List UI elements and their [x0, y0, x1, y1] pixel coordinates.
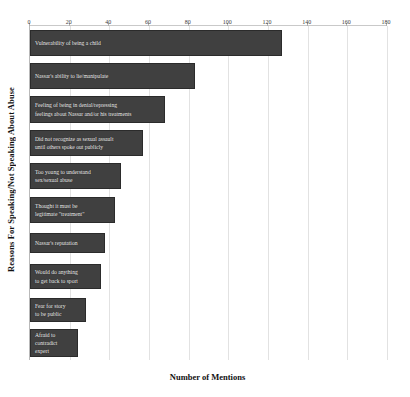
bar-row[interactable]: Too young to understand sex/sexual abuse — [30, 163, 387, 189]
bar[interactable] — [30, 329, 78, 357]
bar[interactable] — [30, 130, 143, 156]
x-tick-label: 20 — [66, 19, 72, 25]
x-tick-label: 80 — [185, 19, 191, 25]
bar[interactable] — [30, 197, 115, 223]
bar-row[interactable]: Nassar's ability to lie/manipulate — [30, 63, 387, 89]
bar-row[interactable]: Did not recognize as sexual assault unti… — [30, 130, 387, 156]
bar-row[interactable]: Thought it must be legitimate "treatment… — [30, 197, 387, 223]
bar-row[interactable]: Fear for story to be public — [30, 298, 387, 322]
bar[interactable] — [30, 63, 195, 89]
gridline — [387, 26, 388, 360]
x-tick-label: 60 — [145, 19, 151, 25]
x-tick-label: 180 — [382, 19, 391, 25]
x-axis-title: Number of Mentions — [29, 372, 386, 382]
bar[interactable] — [30, 96, 165, 123]
bar[interactable] — [30, 264, 101, 289]
bar[interactable] — [30, 163, 121, 189]
bar[interactable] — [30, 298, 86, 322]
x-tick-label: 160 — [342, 19, 351, 25]
bar-row[interactable]: Feeling of being in denial/repressing fe… — [30, 96, 387, 123]
x-tick-label: 0 — [28, 19, 31, 25]
bar-row[interactable]: Nassar's reputation — [30, 233, 387, 253]
x-axis-top: 020406080100120140160180 — [29, 14, 386, 26]
bar[interactable] — [30, 233, 105, 253]
x-tick-label: 140 — [302, 19, 311, 25]
y-axis-title-text: Reasons For Speaking/Not Speaking About … — [6, 87, 16, 272]
x-tick-label: 40 — [105, 19, 111, 25]
bar-row[interactable]: Would do anything to get back to sport — [30, 264, 387, 289]
x-tick-label: 100 — [223, 19, 232, 25]
y-axis-title: Reasons For Speaking/Not Speaking About … — [0, 0, 22, 360]
plot-area: Vulnerability of being a childNassar's a… — [29, 26, 387, 360]
bar-chart: Reasons For Speaking/Not Speaking About … — [0, 0, 410, 397]
bar[interactable] — [30, 30, 282, 56]
bar-row[interactable]: Vulnerability of being a child — [30, 30, 387, 56]
bar-row[interactable]: Afraid to contradict expert — [30, 329, 387, 357]
x-tick-label: 120 — [263, 19, 272, 25]
